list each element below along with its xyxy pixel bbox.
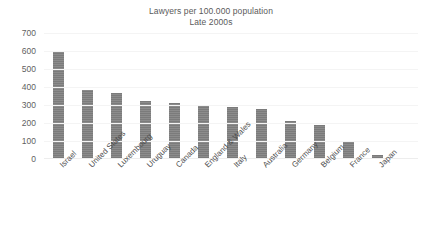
y-axis-tick-label: 200 (0, 119, 40, 128)
x-axis-label-slot: Luxembourg (102, 161, 131, 228)
x-axis-label-slot: Uruguay (131, 161, 160, 228)
x-axis-label-slot: Italy (218, 161, 247, 228)
gridline (44, 51, 418, 52)
y-axis-tick-label: 500 (0, 65, 40, 74)
x-axis-label-slot: Israel (44, 161, 73, 228)
x-axis-label-slot: Japan (363, 161, 392, 228)
x-axis-label-slot: France (334, 161, 363, 228)
y-axis-tick-label: 100 (0, 137, 40, 146)
x-axis-label-slot: England & Wales (189, 161, 218, 228)
bar[interactable] (82, 90, 93, 159)
x-axis-label-slot: Australia (247, 161, 276, 228)
bar-chart: Lawyers per 100.000 population Late 2000… (0, 0, 422, 228)
chart-title-line1: Lawyers per 100.000 population (149, 6, 273, 16)
y-axis-tick-label: 400 (0, 83, 40, 92)
x-axis-labels: IsraelUnited StatesLuxembourgUruguayCana… (44, 161, 418, 228)
x-axis-label-slot: Germany (276, 161, 305, 228)
gridline (44, 105, 418, 106)
y-axis-tick-label: 300 (0, 101, 40, 110)
x-axis-label-slot: United States (73, 161, 102, 228)
bar[interactable] (140, 101, 151, 159)
y-axis: 7006005004003002001000 (0, 0, 40, 228)
bar[interactable] (198, 105, 209, 159)
y-axis-tick-label: 700 (0, 29, 40, 38)
gridline (44, 69, 418, 70)
x-axis-label-slot: Canada (160, 161, 189, 228)
y-axis-tick-label: 0 (0, 155, 40, 164)
bar[interactable] (169, 103, 180, 159)
x-axis-label-slot: Belgium (305, 161, 334, 228)
y-axis-tick-label: 600 (0, 47, 40, 56)
gridline (44, 33, 418, 34)
gridline (44, 87, 418, 88)
bar[interactable] (256, 109, 267, 159)
gridline (44, 123, 418, 124)
chart-subtitle: Late 2000s (0, 17, 422, 28)
chart-title: Lawyers per 100.000 population Late 2000… (0, 6, 422, 28)
